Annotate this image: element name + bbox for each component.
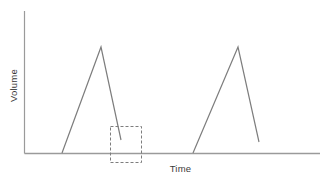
waveform-pulse-1 (62, 47, 121, 153)
waveform-pulse-2 (193, 47, 259, 153)
x-axis-label-text: Time (170, 163, 192, 174)
y-axis-label: Volume (8, 56, 19, 116)
chart-figure: Time Volume (0, 0, 331, 180)
chart-plot-area (0, 0, 331, 180)
selection-box[interactable] (111, 127, 142, 163)
x-axis-label: Time (0, 163, 331, 174)
